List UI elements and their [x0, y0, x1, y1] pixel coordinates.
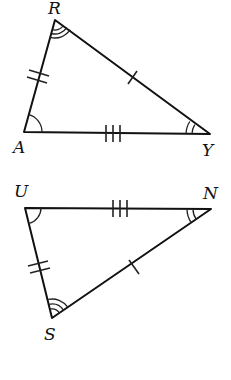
vertex-label-n: N: [202, 183, 219, 203]
vertex-label-a: A: [11, 137, 25, 157]
vertex-label-r: R: [47, 0, 61, 18]
angle-y-double-arc: [186, 122, 195, 134]
angle-a-single-arc: [29, 115, 42, 133]
angle-u-single-arc: [29, 208, 41, 223]
side-ra-double-tick: [27, 70, 49, 83]
vertex-label-y: Y: [202, 140, 215, 160]
vertex-label-u: U: [14, 181, 29, 201]
triangle-ray: R A Y: [11, 0, 215, 160]
triangle-usn: U N S: [14, 181, 219, 344]
vertex-label-s: S: [44, 324, 56, 344]
side-ry-single-tick: [128, 71, 137, 84]
triangle-usn-outline: [25, 208, 211, 318]
congruent-triangles-diagram: R A Y: [0, 0, 231, 380]
